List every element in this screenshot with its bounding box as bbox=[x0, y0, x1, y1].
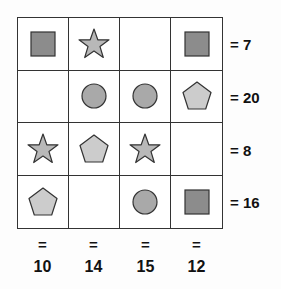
star-icon bbox=[26, 132, 60, 166]
col-sum-1: 10 bbox=[17, 258, 68, 276]
grid-cell-r1-c3 bbox=[120, 18, 171, 71]
grid-cell-r2-c4 bbox=[171, 71, 222, 124]
grid-cell-r3-c3 bbox=[120, 123, 171, 176]
square-icon bbox=[180, 27, 214, 61]
grid-cell-r1-c1 bbox=[18, 18, 69, 71]
star-icon bbox=[128, 132, 162, 166]
grid-cell-r2-c1 bbox=[18, 71, 69, 124]
puzzle-grid bbox=[17, 17, 223, 229]
grid-cell-r1-c2 bbox=[69, 18, 120, 71]
circle-icon bbox=[77, 79, 111, 113]
grid-cell-r4-c1 bbox=[18, 176, 69, 229]
grid-cell-r1-c4 bbox=[171, 18, 222, 71]
grid-cell-r4-c3 bbox=[120, 176, 171, 229]
grid-cell-r4-c4 bbox=[171, 176, 222, 229]
grid-cell-r3-c1 bbox=[18, 123, 69, 176]
grid-cell-r4-c2 bbox=[69, 176, 120, 229]
row-sum-3: = 8 bbox=[230, 142, 251, 159]
pentagon-icon bbox=[26, 185, 60, 219]
col-sum-3: 15 bbox=[120, 258, 171, 276]
grid-cell-r3-c2 bbox=[69, 123, 120, 176]
circle-icon bbox=[128, 185, 162, 219]
grid-cell-r3-c4 bbox=[171, 123, 222, 176]
row-sum-2: = 20 bbox=[230, 89, 260, 106]
col-eq-3: = bbox=[120, 236, 171, 253]
pentagon-icon bbox=[77, 132, 111, 166]
square-icon bbox=[26, 27, 60, 61]
col-eq-2: = bbox=[68, 236, 119, 253]
col-sum-4: 12 bbox=[171, 258, 222, 276]
square-icon bbox=[180, 185, 214, 219]
grid-cell-r2-c2 bbox=[69, 71, 120, 124]
circle-icon bbox=[128, 79, 162, 113]
col-sum-2: 14 bbox=[68, 258, 119, 276]
pentagon-icon bbox=[180, 79, 214, 113]
col-eq-4: = bbox=[171, 236, 222, 253]
row-sum-1: = 7 bbox=[230, 36, 251, 53]
row-sum-4: = 16 bbox=[230, 194, 260, 211]
grid-cell-r2-c3 bbox=[120, 71, 171, 124]
col-eq-1: = bbox=[17, 236, 68, 253]
star-icon bbox=[77, 27, 111, 61]
